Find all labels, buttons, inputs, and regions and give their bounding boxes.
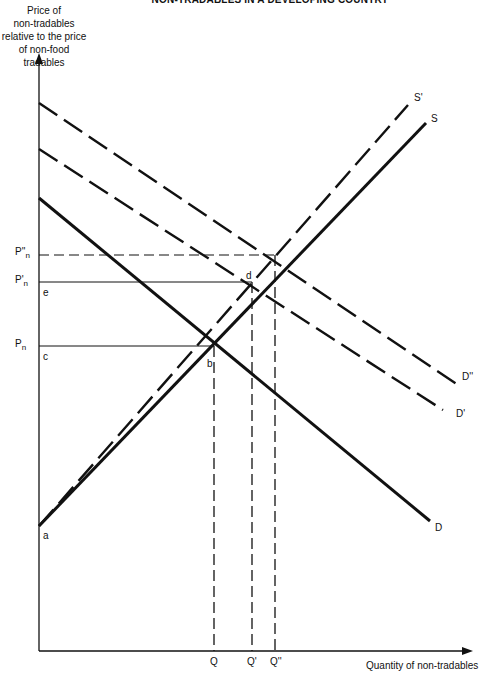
curve-label-s-prime: S': [414, 93, 423, 103]
quantity-label-q: Q: [210, 657, 218, 667]
point-label-a: a: [43, 531, 49, 541]
demand-curve-d-prime: [39, 149, 443, 410]
curve-label-s: S: [431, 114, 438, 124]
point-label-e: e: [43, 288, 49, 298]
point-label-d: d: [246, 271, 252, 281]
demand-curve-d: [39, 198, 430, 521]
x-axis-arrow-icon: [462, 647, 473, 655]
price-label-p-double-prime: P''n: [15, 247, 30, 258]
curve-label-d-double-prime: D'': [462, 372, 473, 382]
price-label-p: Pn: [15, 339, 26, 350]
quantity-label-q-double-prime: Q'': [270, 657, 282, 667]
point-label-b: b: [207, 359, 213, 369]
y-axis-arrow-icon: [35, 53, 43, 64]
x-axis-label: Quantity of non-tradables: [366, 661, 478, 671]
curve-label-d-prime: D': [456, 409, 465, 419]
curve-label-d: D: [435, 523, 442, 533]
quantity-label-q-prime: Q': [247, 657, 257, 667]
demand-curve-d-double-prime: [39, 103, 458, 385]
supply-demand-diagram: [0, 0, 479, 674]
price-label-p-prime: P'n: [15, 275, 28, 286]
point-label-c: c: [43, 352, 48, 362]
